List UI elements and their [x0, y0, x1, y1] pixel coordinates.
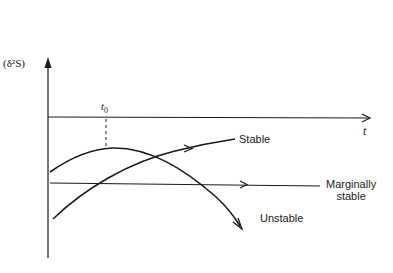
stable-curve — [53, 139, 235, 219]
t0-label-sub: 0 — [104, 106, 108, 115]
unstable-label: Unstable — [260, 212, 303, 224]
unstable-leader-line — [240, 212, 256, 227]
marginally-stable-line — [50, 181, 320, 188]
stable-label: Stable — [239, 133, 270, 145]
unstable-arrow-icon — [233, 218, 242, 229]
t-axis-label: t — [363, 125, 366, 137]
y-axis — [45, 57, 52, 258]
stability-diagram — [0, 0, 393, 273]
t-axis — [48, 114, 370, 122]
marginal-arrow-icon — [240, 181, 247, 188]
y-axis-label: (δ²S) — [3, 57, 25, 69]
marginally-stable-label-line1: Marginally — [326, 178, 376, 190]
t0-label: t0 — [101, 100, 108, 117]
marginally-stable-label: Marginally stable — [326, 178, 376, 202]
y-axis-arrow-icon — [45, 57, 52, 68]
marginally-stable-label-line2: stable — [326, 190, 376, 202]
